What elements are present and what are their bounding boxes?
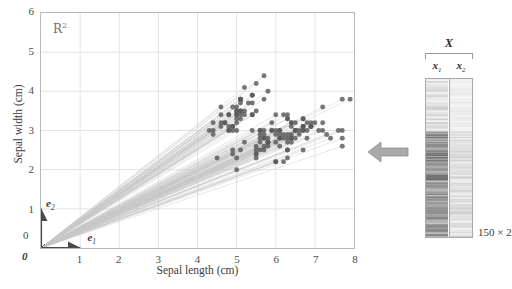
matrix-dimensions-label: 150 × 2	[478, 226, 512, 238]
figure-canvas: R2 e2 e1 0123456780123456 0 0 Sepal leng…	[0, 0, 512, 289]
matrix-body	[425, 78, 473, 238]
left-arrow-icon	[366, 139, 410, 165]
y-tick-6: 6	[16, 5, 34, 17]
matrix-title: X	[425, 36, 473, 51]
scatter-plot-panel: R2 e2 e1	[40, 12, 355, 249]
space-label: R2	[53, 21, 67, 36]
origin-tick-label: 0	[23, 229, 29, 241]
basis-vector-e2-label: e2	[46, 197, 55, 212]
basis-vector-e1-label: e1	[87, 231, 96, 246]
space-label-exponent: 2	[62, 21, 67, 30]
y-tick-1: 1	[16, 203, 34, 215]
space-label-symbol: R	[53, 22, 62, 36]
matrix-column-header-x2: x2	[449, 59, 473, 74]
y-axis-title: Sepal width (cm)	[12, 54, 24, 194]
matrix-column-divider	[449, 79, 450, 237]
x-axis-title: Sepal length (cm)	[40, 264, 355, 276]
data-matrix-panel: X x1 x2 150 × 2	[406, 36, 512, 251]
basis-vectors-layer	[41, 13, 354, 248]
matrix-column-header-x1: x1	[425, 59, 449, 74]
origin-vector-label: 0	[22, 250, 28, 262]
